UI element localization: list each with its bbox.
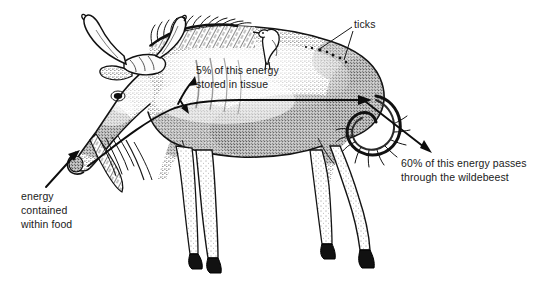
beard [90, 134, 152, 192]
hoof-hind-near [359, 250, 375, 268]
annotation-line: through the wildebeest [401, 170, 527, 184]
annotation-energy-stored-in-tissue: 5% of this energy stored in tissue [196, 63, 279, 91]
legs [176, 138, 374, 273]
horn-left [84, 15, 126, 64]
energy-exit-arrow [366, 102, 432, 153]
hoof-hind-far [321, 244, 336, 259]
annotation-energy-passes-through: 60% of this energy passes through the wi… [401, 156, 527, 184]
annotation-line: stored in tissue [196, 77, 279, 91]
wildebeest-illustration [0, 0, 544, 286]
eye [114, 93, 122, 99]
leg-front-far [176, 146, 198, 254]
annotation-energy-contained-within-food: energy contained within food [21, 189, 72, 231]
wildebeest-energy-diagram: 5% of this energy stored in tissue ticks… [0, 0, 544, 286]
annotation-line: energy [21, 189, 72, 203]
mane [145, 16, 255, 48]
bird-eye [262, 32, 264, 34]
annotation-line: 5% of this energy [196, 63, 279, 77]
annotation-ticks: ticks [354, 17, 376, 31]
leg-front-near [196, 150, 218, 258]
hoof-front-near [207, 258, 222, 273]
annotation-line: ticks [354, 17, 376, 31]
annotation-line: within food [21, 217, 72, 231]
hoof-front-far [189, 254, 203, 269]
leg-hind-near [330, 146, 370, 250]
annotation-line: contained [21, 203, 72, 217]
annotation-line: 60% of this energy passes [401, 156, 527, 170]
